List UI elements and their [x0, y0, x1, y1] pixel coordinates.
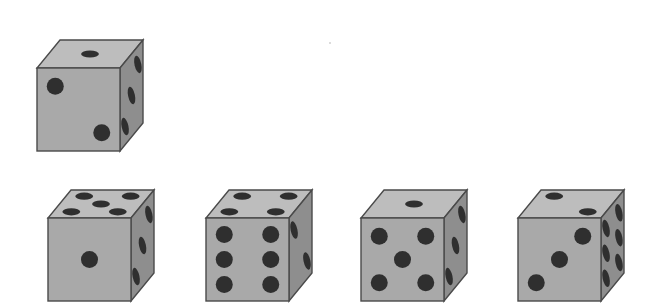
pip-icon	[216, 251, 233, 268]
pip-icon	[81, 50, 99, 57]
option-die-3-graphic	[360, 189, 470, 304]
pip-icon	[371, 274, 388, 291]
option-die-2-graphic	[205, 189, 315, 304]
pip-icon	[109, 208, 127, 215]
pip-icon	[93, 124, 110, 141]
pip-icon	[579, 208, 597, 215]
pip-icon	[47, 78, 64, 95]
pip-icon	[267, 208, 285, 215]
reference-die-graphic	[36, 39, 146, 154]
pip-icon	[417, 274, 434, 291]
pip-icon	[280, 193, 298, 200]
pip-icon	[233, 193, 251, 200]
pip-icon	[262, 276, 279, 293]
pip-icon	[220, 208, 238, 215]
pip-icon	[92, 200, 110, 207]
pip-icon	[528, 274, 545, 291]
option-die-4-graphic	[517, 189, 627, 304]
pip-icon	[81, 251, 98, 268]
option-die-1-graphic	[47, 189, 157, 304]
pip-icon	[405, 200, 423, 207]
pip-icon	[574, 228, 591, 245]
pip-icon	[371, 228, 388, 245]
pip-icon	[122, 193, 140, 200]
background-speck	[329, 42, 331, 44]
pip-icon	[417, 228, 434, 245]
pip-icon	[551, 251, 568, 268]
pip-icon	[62, 208, 80, 215]
option-die-1[interactable]	[47, 189, 157, 304]
pip-icon	[262, 251, 279, 268]
option-die-3[interactable]	[360, 189, 470, 304]
pip-icon	[394, 251, 411, 268]
pip-icon	[75, 193, 93, 200]
pip-icon	[216, 226, 233, 243]
option-die-4[interactable]	[517, 189, 627, 304]
pip-icon	[545, 193, 563, 200]
pip-icon	[262, 226, 279, 243]
option-die-2[interactable]	[205, 189, 315, 304]
reference-die	[36, 39, 146, 154]
pip-icon	[216, 276, 233, 293]
